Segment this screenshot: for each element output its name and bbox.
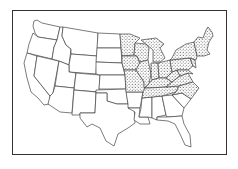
state-in: [151, 63, 159, 80]
dotted-region: [120, 27, 213, 99]
state-nm: [72, 90, 96, 115]
state-ks: [99, 75, 126, 89]
state-ar: [126, 92, 143, 108]
state-sd: [96, 48, 122, 63]
state-fl: [157, 116, 191, 147]
state-ny: [170, 42, 197, 60]
state-new-england: [194, 27, 213, 56]
state-co: [74, 73, 100, 92]
state-nd: [97, 33, 121, 48]
state-wy: [69, 54, 97, 74]
us-map: [0, 0, 238, 169]
state-ne: [96, 62, 125, 75]
